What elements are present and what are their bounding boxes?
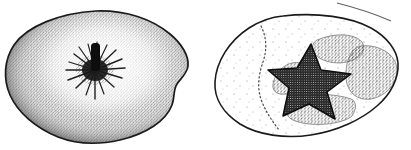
figure-plate: Fruit calyx-end comparison plate [0, 0, 411, 150]
figure-right-svg [205, 0, 411, 150]
figure-left-svg [0, 0, 206, 150]
peduncle-stem [91, 43, 100, 71]
figure-right [205, 0, 411, 150]
figure-left [0, 0, 206, 150]
